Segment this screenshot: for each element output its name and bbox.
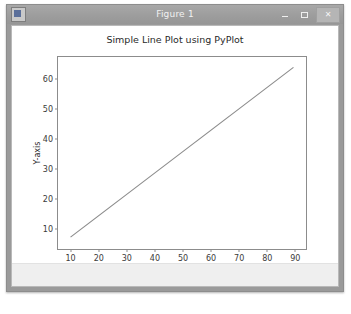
y-tick-label: 60 (43, 75, 53, 84)
x-tick-label: 40 (150, 254, 160, 263)
window-client-area: Simple Line Plot using PyPlot 1020304050… (11, 25, 339, 287)
x-tick-mark (70, 249, 71, 252)
y-tick-mark (55, 228, 58, 229)
close-button[interactable]: ✕ (316, 7, 340, 23)
minimize-icon (282, 16, 288, 17)
figure-canvas[interactable]: Simple Line Plot using PyPlot 1020304050… (12, 26, 338, 264)
x-tick-label: 20 (94, 254, 104, 263)
x-tick-mark (239, 249, 240, 252)
x-tick-label: 30 (122, 254, 132, 263)
x-tick-mark (267, 249, 268, 252)
y-tick-label: 20 (43, 194, 53, 203)
window-titlebar: Figure 1 ✕ (7, 5, 343, 24)
y-tick-label: 50 (43, 105, 53, 114)
x-tick-label: 60 (206, 254, 216, 263)
x-tick-mark (98, 249, 99, 252)
y-tick-mark (55, 79, 58, 80)
x-tick-label: 70 (234, 254, 244, 263)
x-tick-label: 10 (66, 254, 76, 263)
line-series (71, 67, 294, 237)
y-tick-mark (55, 109, 58, 110)
maximize-icon (301, 12, 308, 18)
x-tick-mark (154, 249, 155, 252)
y-tick-mark (55, 139, 58, 140)
x-tick-label: 80 (262, 254, 272, 263)
y-tick-label: 40 (43, 135, 53, 144)
x-tick-mark (211, 249, 212, 252)
minimize-button[interactable] (276, 8, 293, 21)
plot-axes: 102030405060102030405060708090 (57, 56, 307, 250)
x-tick-mark (295, 249, 296, 252)
y-tick-label: 30 (43, 164, 53, 173)
close-icon: ✕ (325, 11, 332, 19)
plot-container: Simple Line Plot using PyPlot 1020304050… (12, 26, 338, 264)
y-tick-mark (55, 168, 58, 169)
y-axis-label: Y-axis (33, 142, 42, 165)
window-controls: ✕ (276, 5, 343, 24)
y-tick-mark (55, 198, 58, 199)
figure-window: Figure 1 ✕ Simple Line Plot using PyPlot (6, 4, 344, 292)
x-tick-mark (126, 249, 127, 252)
line-series-svg (58, 57, 306, 249)
x-tick-label: 90 (290, 254, 300, 263)
y-tick-label: 10 (43, 224, 53, 233)
x-tick-mark (183, 249, 184, 252)
maximize-button[interactable] (296, 8, 313, 21)
matplotlib-icon (11, 7, 26, 22)
x-tick-label: 50 (178, 254, 188, 263)
chart-title: Simple Line Plot using PyPlot (12, 34, 338, 45)
status-bar (12, 263, 338, 286)
